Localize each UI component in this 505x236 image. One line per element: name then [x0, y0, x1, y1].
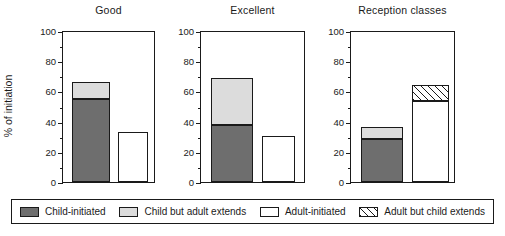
x-axis-baseline [350, 182, 455, 183]
y-ticklabel-60: 60 [183, 88, 194, 98]
legend-item-adult-but-child-extends: Adult but child extends [359, 206, 485, 217]
y-ticklabel-100: 100 [178, 27, 194, 37]
bar-child-led [361, 127, 403, 182]
legend: Child-initiated Child but adult extends … [11, 199, 494, 224]
y-minor-tick [60, 77, 63, 78]
bar-child-led [72, 82, 110, 182]
x-axis-baseline [200, 182, 305, 183]
y-tick-40 [346, 123, 351, 124]
y-minor-tick [60, 138, 63, 139]
y-ticklabel-40: 40 [45, 118, 56, 128]
y-tick-60 [196, 92, 201, 93]
y-ticklabel-20: 20 [45, 148, 56, 158]
y-tick-60 [346, 92, 351, 93]
legend-label: Adult but child extends [384, 206, 485, 217]
segment-child-but-adult-extends [361, 127, 403, 139]
plot-area: 100 80 60 40 20 0 [62, 31, 155, 182]
y-minor-tick [348, 47, 351, 48]
y-ticklabel-20: 20 [333, 148, 344, 158]
y-minor-tick [198, 77, 201, 78]
y-tick-100 [196, 32, 201, 33]
panel-excellent: Excellent 100 80 60 40 20 0 [200, 0, 305, 196]
y-tick-60 [58, 92, 63, 93]
y-tick-100 [346, 32, 351, 33]
panel-title: Excellent [200, 4, 305, 16]
y-tick-80 [196, 62, 201, 63]
x-axis-baseline [62, 182, 155, 183]
y-ticklabel-20: 20 [183, 148, 194, 158]
panel-good: Good 100 80 60 40 20 0 [62, 0, 155, 196]
y-tick-20 [196, 153, 201, 154]
y-ticklabel-80: 80 [333, 57, 344, 67]
y-axis-label: % of initiation [2, 75, 14, 137]
y-ticklabel-80: 80 [183, 57, 194, 67]
bar-adult-led [262, 136, 295, 182]
y-minor-tick [348, 138, 351, 139]
y-tick-20 [346, 153, 351, 154]
y-minor-tick [348, 77, 351, 78]
figure: % of initiation Good 100 80 60 40 20 0 [0, 0, 505, 236]
y-minor-tick [198, 138, 201, 139]
legend-swatch-hatch-icon [359, 207, 378, 217]
segment-adult-but-child-extends [412, 85, 449, 100]
segment-child-initiated [72, 99, 110, 182]
segment-child-but-adult-extends [72, 82, 110, 99]
y-minor-tick [198, 168, 201, 169]
bar-child-led [211, 78, 253, 182]
y-ticklabel-100: 100 [328, 27, 344, 37]
panel-title: Reception classes [350, 4, 455, 16]
bar-adult-led [412, 85, 449, 182]
plot-area: 100 80 60 40 20 0 [350, 31, 455, 182]
y-tick-100 [58, 32, 63, 33]
segment-adult-initiated [118, 132, 148, 182]
y-minor-tick [60, 47, 63, 48]
legend-label: Adult-initiated [285, 206, 346, 217]
y-minor-tick [198, 108, 201, 109]
y-ticklabel-0: 0 [339, 178, 344, 188]
y-ticklabel-0: 0 [51, 178, 56, 188]
segment-adult-initiated [412, 101, 449, 183]
y-tick-80 [346, 62, 351, 63]
y-ticklabel-60: 60 [45, 88, 56, 98]
legend-swatch-white-icon [260, 207, 279, 217]
segment-child-initiated [211, 125, 253, 182]
legend-item-child-initiated: Child-initiated [20, 206, 106, 217]
y-ticklabel-0: 0 [189, 178, 194, 188]
y-minor-tick [348, 108, 351, 109]
y-minor-tick [60, 168, 63, 169]
y-minor-tick [60, 108, 63, 109]
y-tick-80 [58, 62, 63, 63]
plot-area: 100 80 60 40 20 0 [200, 31, 305, 182]
y-tick-20 [58, 153, 63, 154]
y-ticklabel-40: 40 [183, 118, 194, 128]
y-ticklabel-100: 100 [40, 27, 56, 37]
panel-reception-classes: Reception classes 100 80 60 40 20 0 [350, 0, 455, 196]
y-minor-tick [348, 168, 351, 169]
legend-item-child-but-adult-extends: Child but adult extends [119, 206, 246, 217]
y-tick-40 [196, 123, 201, 124]
y-minor-tick [198, 47, 201, 48]
bar-adult-led [118, 132, 148, 182]
panel-title: Good [62, 4, 155, 16]
legend-swatch-dark-icon [20, 207, 39, 217]
legend-swatch-light-icon [119, 207, 138, 217]
y-ticklabel-60: 60 [333, 88, 344, 98]
legend-label: Child-initiated [45, 206, 106, 217]
segment-adult-initiated [262, 136, 295, 182]
y-ticklabel-80: 80 [45, 57, 56, 67]
y-ticklabel-40: 40 [333, 118, 344, 128]
segment-child-but-adult-extends [211, 78, 253, 125]
legend-item-adult-initiated: Adult-initiated [260, 206, 346, 217]
y-tick-40 [58, 123, 63, 124]
legend-label: Child but adult extends [144, 206, 246, 217]
segment-child-initiated [361, 139, 403, 182]
